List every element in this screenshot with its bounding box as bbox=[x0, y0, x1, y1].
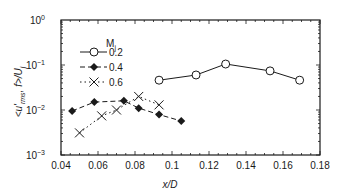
legend-label: 0.6 bbox=[109, 77, 123, 88]
data-point bbox=[97, 111, 106, 120]
data-point bbox=[155, 100, 164, 109]
data-point bbox=[266, 67, 274, 75]
data-point bbox=[90, 98, 98, 106]
series-0.2 bbox=[155, 60, 304, 84]
data-point bbox=[155, 111, 163, 119]
series-0.4 bbox=[68, 97, 185, 125]
data-point bbox=[68, 107, 76, 115]
legend-marker bbox=[90, 63, 98, 71]
y-axis-title-rest: , f>/U bbox=[13, 67, 24, 92]
data-point bbox=[120, 97, 128, 105]
x-tick-label: 0.16 bbox=[273, 160, 293, 171]
y-axis-title: <u'rms, f>/Uj bbox=[13, 66, 27, 117]
x-tick-label: 0.04 bbox=[51, 160, 71, 171]
data-point bbox=[155, 76, 163, 84]
data-point bbox=[134, 92, 143, 101]
axis-ticks bbox=[61, 20, 320, 155]
series-0.6 bbox=[75, 92, 164, 137]
legend-item-0.6: 0.6 bbox=[80, 77, 123, 88]
plot-axes bbox=[61, 20, 320, 155]
x-tick-labels: 0.040.060.080.10.120.140.160.18 bbox=[51, 160, 330, 171]
legend: Mj0.20.40.6 bbox=[80, 38, 123, 88]
x-tick-label: 0.18 bbox=[310, 160, 330, 171]
data-point bbox=[296, 76, 304, 84]
svg-text:<u'rms, f>/Uj: <u'rms, f>/Uj bbox=[13, 66, 27, 117]
legend-marker bbox=[90, 78, 99, 87]
legend-label: 0.2 bbox=[109, 47, 123, 58]
legend-marker bbox=[90, 48, 98, 56]
series-line bbox=[72, 101, 181, 121]
legend-item-0.4: 0.4 bbox=[80, 62, 123, 73]
x-tick-label: 0.06 bbox=[88, 160, 108, 171]
legend-label: 0.4 bbox=[109, 62, 123, 73]
y-axis-title-tail: j bbox=[19, 66, 27, 69]
x-tick-label: 0.08 bbox=[125, 160, 145, 171]
x-axis-title: x/D bbox=[162, 179, 178, 190]
data-point bbox=[75, 128, 84, 137]
x-tick-label: 0.14 bbox=[236, 160, 256, 171]
legend-item-0.2: 0.2 bbox=[80, 47, 123, 58]
data-point bbox=[112, 106, 121, 115]
y-tick-label: 100 bbox=[30, 14, 45, 26]
chart: 0.040.060.080.10.120.140.160.18 10−310−2… bbox=[0, 0, 343, 196]
x-tick-label: 0.1 bbox=[165, 160, 179, 171]
y-tick-labels: 10−310−210−1100 bbox=[26, 14, 45, 161]
plot-frame bbox=[61, 20, 320, 155]
data-point bbox=[135, 104, 143, 112]
y-tick-label: 10−1 bbox=[26, 59, 45, 71]
x-tick-label: 0.12 bbox=[199, 160, 219, 171]
data-point bbox=[192, 71, 200, 79]
y-tick-label: 10−2 bbox=[26, 104, 45, 116]
y-axis-title-sub: rms bbox=[19, 92, 26, 104]
y-tick-label: 10−3 bbox=[26, 149, 45, 161]
y-axis-title-main: <u' bbox=[13, 103, 24, 117]
data-series bbox=[68, 60, 304, 137]
data-point bbox=[177, 117, 185, 125]
data-point bbox=[222, 60, 230, 68]
